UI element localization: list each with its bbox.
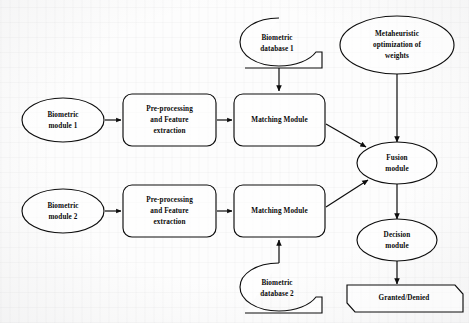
node-label-line1: Biometric [47, 202, 79, 210]
node-label-line3: weights [385, 52, 409, 60]
node-label-line1: Metaheuristic [375, 30, 420, 38]
node-label-line3: extraction [153, 127, 185, 135]
node-label-line1: Fusion [386, 154, 407, 162]
node-label-line1: Decision [384, 231, 411, 239]
database-callout-shape [240, 18, 322, 68]
node-label-line2: and Feature [150, 207, 188, 215]
node-fusion-module[interactable]: Fusion module [357, 142, 437, 184]
node-label-line3: extraction [153, 218, 185, 226]
ellipse-shape [22, 98, 104, 142]
node-label-line1: Biometric [261, 279, 293, 287]
ellipse-shape [357, 219, 437, 261]
edge-matching1-to-fusion [326, 124, 366, 147]
node-label-line1: Granted/Denied [379, 294, 430, 302]
node-matching-module-1[interactable]: Matching Module [234, 94, 325, 146]
node-biometric-module-1[interactable]: Biometric module 1 [22, 98, 104, 142]
ellipse-shape [357, 142, 437, 184]
node-label-line2: and Feature [150, 116, 188, 124]
node-metaheuristic-optimization[interactable]: Metaheuristic optimization of weights [340, 16, 454, 74]
node-label-line2: module 1 [49, 122, 78, 130]
node-label-line2: optimization of [373, 41, 422, 49]
node-result-granted-denied[interactable]: Granted/Denied [347, 285, 463, 312]
node-label-line2: database 1 [260, 45, 294, 53]
node-label-line2: database 2 [260, 290, 294, 298]
node-label-line1: Pre-processing [146, 196, 193, 204]
node-biometric-database-2[interactable]: Biometric database 2 [240, 263, 322, 313]
node-label-line2: module 2 [49, 213, 78, 221]
ellipse-shape [22, 189, 104, 233]
biometric-fusion-diagram: Biometric module 1 Pre-processing and Fe… [0, 0, 469, 323]
node-decision-module[interactable]: Decision module [357, 219, 437, 261]
node-label-line1: Matching Module [251, 116, 307, 124]
node-biometric-database-1[interactable]: Biometric database 1 [240, 18, 322, 68]
node-label-line2: module [385, 165, 408, 173]
node-preprocess-1[interactable]: Pre-processing and Feature extraction [123, 94, 216, 146]
node-label-line2: module [385, 242, 408, 250]
node-label-line1: Matching Module [251, 207, 307, 215]
diagram-page: Biometric module 1 Pre-processing and Fe… [0, 0, 469, 323]
node-biometric-module-2[interactable]: Biometric module 2 [22, 189, 104, 233]
node-preprocess-2[interactable]: Pre-processing and Feature extraction [123, 185, 216, 237]
database-callout-shape [240, 263, 322, 313]
node-matching-module-2[interactable]: Matching Module [234, 185, 325, 237]
edge-matching2-to-fusion [326, 180, 368, 207]
node-label-line1: Pre-processing [146, 105, 193, 113]
node-label-line1: Biometric [261, 34, 293, 42]
node-label-line1: Biometric [47, 111, 79, 119]
